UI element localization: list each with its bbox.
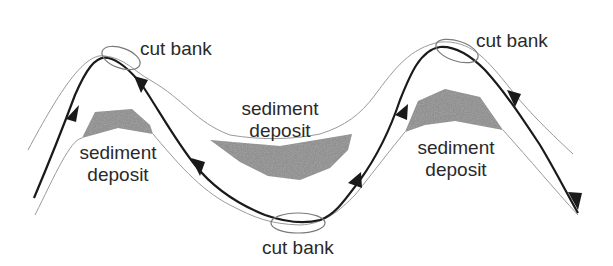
sediment-deposit-right <box>405 89 503 132</box>
label-line: deposit <box>410 159 502 181</box>
sediment-deposit-label-middle: sediment deposit <box>234 98 326 142</box>
sediment-deposit-label-left: sediment deposit <box>72 142 164 186</box>
cut-bank-label-bottom: cut bank <box>262 237 334 259</box>
cut-bank-label-top-right: cut bank <box>476 30 548 52</box>
meander-diagram: cut bank cut bank cut bank sediment depo… <box>0 0 613 266</box>
label-line: sediment <box>72 142 164 164</box>
cut-bank-label-top-left: cut bank <box>140 38 212 60</box>
sediment-deposit-label-right: sediment deposit <box>410 137 502 181</box>
label-line: deposit <box>72 164 164 186</box>
label-line: sediment <box>234 98 326 120</box>
label-line: deposit <box>234 120 326 142</box>
label-line: sediment <box>410 137 502 159</box>
sediment-deposit-left <box>82 109 153 138</box>
